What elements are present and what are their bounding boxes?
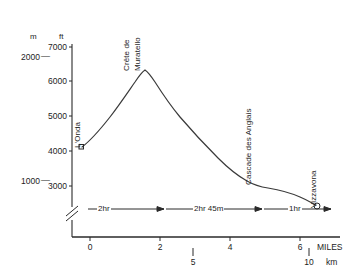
poi-label-crete-de-muratello-line1: Crête de — [123, 40, 131, 71]
y-tick-m-1000-dash: — — [41, 176, 50, 185]
timing-label-segment-2: 2hr 45m — [193, 205, 224, 213]
x-axis-unit-km: km — [326, 258, 337, 267]
x-tick-miles-4: 4 — [220, 243, 240, 252]
x-tick-km-5: 5 — [183, 258, 203, 267]
poi-label-crete-de-muratello-line2: Muratello — [134, 37, 142, 71]
y-tick-m-2000-dash: — — [41, 52, 50, 61]
poi-label-cascade-des-anglais: Cascade des Anglais — [245, 108, 253, 185]
timing-label-segment-3: 1hr — [288, 205, 302, 213]
poi-label-vizzavona: Vizzavona — [310, 170, 318, 208]
axis-break-icon — [66, 206, 78, 221]
x-tick-miles-2: 2 — [150, 243, 170, 252]
y-axis-unit-feet: ft — [59, 33, 63, 41]
y-tick-ft-6000: 6000 — [41, 77, 67, 86]
y-axis-unit-meters: m — [30, 33, 37, 41]
elevation-profile-figure: m ft 7000 6000 5000 4000 3000 2000 — 100… — [0, 0, 361, 274]
poi-label-londa: L'Onda — [74, 122, 82, 148]
x-tick-miles-0: 0 — [80, 243, 100, 252]
y-tick-m-1000: 1000 — [14, 177, 40, 186]
x-axis-unit-miles: MILES — [317, 243, 343, 252]
y-tick-m-2000: 2000 — [14, 53, 40, 62]
y-tick-ft-4000: 4000 — [41, 147, 67, 156]
elevation-curve — [82, 70, 316, 205]
y-tick-ft-5000: 5000 — [41, 112, 67, 121]
x-tick-miles-6: 6 — [290, 243, 310, 252]
x-tick-km-10: 10 — [298, 258, 320, 267]
timing-label-segment-1: 2hr — [97, 205, 111, 213]
